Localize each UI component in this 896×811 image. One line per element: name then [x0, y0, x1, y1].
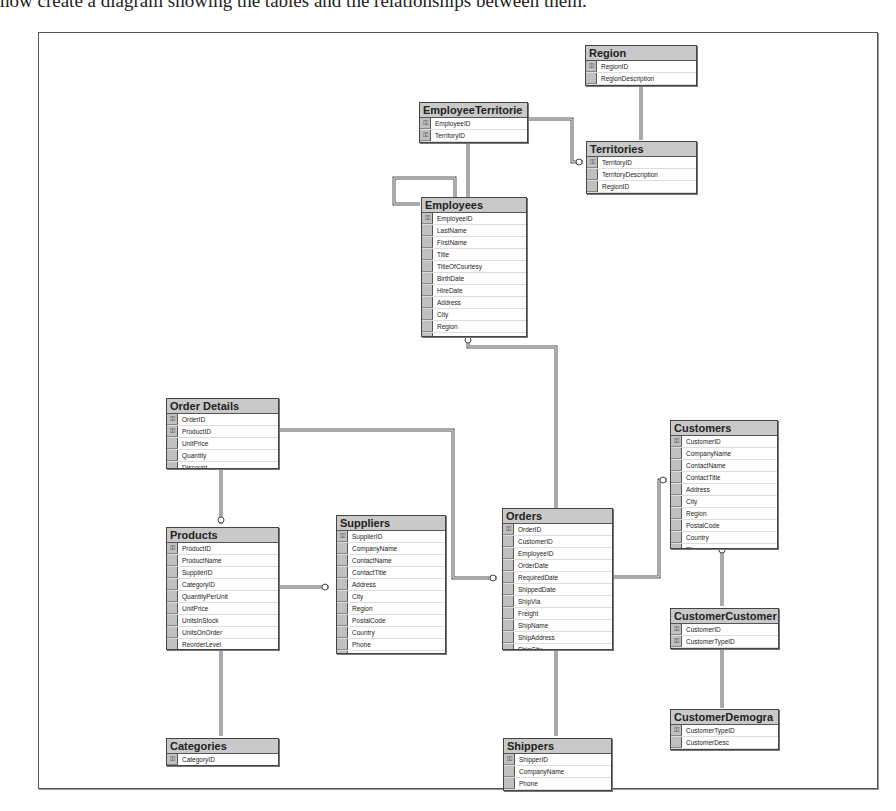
field[interactable]: ContactTitle — [348, 567, 386, 578]
field[interactable]: FirstName — [433, 237, 467, 248]
field[interactable]: PostalCode — [348, 615, 386, 626]
field[interactable]: UnitsInStock — [178, 615, 219, 626]
row-selector — [422, 237, 433, 248]
field[interactable]: ReorderLevel — [178, 639, 221, 650]
field[interactable]: City — [682, 496, 697, 507]
field[interactable]: Region — [682, 508, 707, 519]
row-selector — [167, 627, 178, 638]
field[interactable]: CustomerTypeID — [682, 636, 735, 647]
table-employeeterritories[interactable]: EmployeeTerritorie ⚿EmployeeID ⚿Territor… — [419, 102, 528, 143]
field[interactable]: Quantity — [178, 450, 206, 461]
field[interactable]: CustomerDesc — [682, 737, 729, 748]
field[interactable]: UnitPrice — [178, 603, 208, 614]
table-categories[interactable]: Categories ⚿CategoryID CategoryName Desc… — [166, 738, 279, 766]
field[interactable]: RegionID — [598, 181, 629, 192]
field[interactable]: Region — [348, 603, 373, 614]
row-selector — [671, 472, 682, 483]
table-products[interactable]: Products ⚿ProductID ProductName Supplier… — [166, 527, 279, 650]
field[interactable]: TerritoryID — [598, 157, 632, 168]
field[interactable]: RequiredDate — [514, 572, 558, 583]
field[interactable]: EmployeeID — [514, 548, 553, 559]
field[interactable]: CustomerID — [682, 436, 721, 447]
field[interactable]: Country — [348, 627, 375, 638]
field[interactable]: CompanyName — [682, 448, 731, 459]
table-territories[interactable]: Territories ⚿TerritoryID TerritoryDescri… — [586, 141, 697, 194]
row-selector — [503, 560, 514, 571]
field[interactable]: CustomerTypeID — [682, 725, 735, 736]
field[interactable]: CustomerID — [514, 536, 553, 547]
table-customercustomer[interactable]: CustomerCustomer ⚿CustomerID ⚿CustomerTy… — [670, 608, 779, 649]
field[interactable]: Country — [682, 532, 709, 543]
field[interactable]: RegionID — [597, 61, 628, 72]
field[interactable]: UnitPrice — [178, 438, 208, 449]
key-icon: ⚿ — [337, 531, 348, 542]
field[interactable]: Title — [433, 249, 449, 260]
field[interactable]: ShipperID — [515, 754, 548, 765]
table-orderdetails[interactable]: Order Details ⚿OrderID ⚿ProductID UnitPr… — [166, 398, 279, 469]
field[interactable]: CategoryID — [178, 579, 215, 590]
field[interactable]: ProductID — [178, 426, 211, 437]
field[interactable]: Fax — [348, 651, 363, 654]
field[interactable]: ProductName — [178, 555, 222, 566]
field[interactable]: UnitsOnOrder — [178, 627, 222, 638]
table-title: Employees — [422, 198, 526, 213]
row-selector — [587, 169, 598, 180]
field[interactable]: ShipAddress — [514, 632, 555, 643]
field[interactable]: EmployeeID — [431, 118, 470, 129]
field[interactable]: Phone — [682, 544, 705, 549]
field[interactable]: ShipCity — [514, 644, 542, 650]
table-title: Products — [167, 528, 278, 543]
row-selector — [503, 596, 514, 607]
field[interactable]: Region — [433, 321, 458, 332]
field[interactable]: Freight — [514, 608, 538, 619]
field[interactable]: ContactTitle — [682, 472, 720, 483]
field[interactable]: SupplierID — [348, 531, 382, 542]
field[interactable]: OrderID — [178, 414, 205, 425]
table-customerdemographics[interactable]: CustomerDemogra ⚿CustomerTypeID Customer… — [670, 709, 779, 750]
field[interactable]: City — [348, 591, 363, 602]
field[interactable]: CustomerID — [682, 624, 721, 635]
field[interactable]: TerritoryDescription — [598, 169, 658, 180]
row-selector — [671, 448, 682, 459]
field[interactable]: ProductID — [178, 543, 211, 554]
table-region[interactable]: Region ⚿RegionID RegionDescription — [585, 45, 697, 86]
row-selector — [337, 627, 348, 638]
table-shippers[interactable]: Shippers ⚿ShipperID CompanyName Phone — [503, 738, 612, 791]
field[interactable]: BirthDate — [433, 273, 464, 284]
row-selector — [167, 591, 178, 602]
field[interactable]: PostalCode — [433, 333, 471, 337]
field[interactable]: TitleOfCourtesy — [433, 261, 482, 272]
field[interactable]: RegionDescription — [597, 73, 654, 84]
field[interactable]: ShipName — [514, 620, 548, 631]
field[interactable]: CategoryID — [178, 754, 215, 765]
table-suppliers[interactable]: Suppliers ⚿SupplierID CompanyName Contac… — [336, 515, 446, 654]
key-icon: ⚿ — [587, 157, 598, 168]
field[interactable]: OrderDate — [514, 560, 548, 571]
table-orders[interactable]: Orders ⚿OrderID CustomerID EmployeeID Or… — [502, 508, 613, 650]
field[interactable]: CompanyName — [515, 766, 564, 777]
field[interactable]: PostalCode — [682, 520, 720, 531]
field[interactable]: Phone — [515, 778, 538, 789]
field[interactable]: TerritoryID — [431, 130, 465, 141]
field[interactable]: ContactName — [348, 555, 392, 566]
field[interactable]: City — [433, 309, 448, 320]
field[interactable]: EmployeeID — [433, 213, 472, 224]
field[interactable]: Address — [348, 579, 376, 590]
field[interactable]: OrderID — [514, 524, 541, 535]
field[interactable]: LastName — [433, 225, 467, 236]
field[interactable]: ContactName — [682, 460, 726, 471]
table-customers[interactable]: Customers ⚿CustomerID CompanyName Contac… — [670, 420, 778, 549]
field[interactable]: CompanyName — [348, 543, 397, 554]
field[interactable]: Phone — [348, 639, 371, 650]
field[interactable]: Discount — [178, 462, 207, 469]
field[interactable]: Address — [682, 484, 710, 495]
field[interactable]: SupplierID — [178, 567, 212, 578]
row-selector — [671, 496, 682, 507]
field[interactable]: ShippedDate — [514, 584, 556, 595]
field[interactable]: Address — [433, 297, 461, 308]
field[interactable]: QuantityPerUnit — [178, 591, 228, 602]
row-selector — [337, 591, 348, 602]
field[interactable]: ShipVia — [514, 596, 540, 607]
table-employees[interactable]: Employees ⚿EmployeeID LastName FirstName… — [421, 197, 527, 337]
field[interactable]: HireDate — [433, 285, 463, 296]
